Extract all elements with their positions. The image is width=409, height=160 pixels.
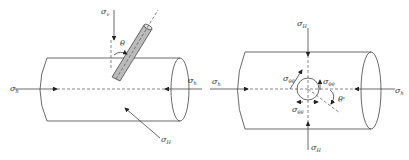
left-cylinder <box>40 58 189 121</box>
right-panel: σH σH σh σh σθθ σθθ σθθ θ' <box>210 19 404 153</box>
right-sigma-h-label-left: σh <box>212 77 221 87</box>
right-sigma-h-label-right: σh <box>395 86 404 96</box>
theta-prime-arc <box>330 90 334 104</box>
theta-label: θ <box>120 39 125 48</box>
inclined-borehole <box>112 10 158 81</box>
sigma-theta-label-3: σθθ <box>292 105 304 115</box>
sigma-theta-label-1: σθθ <box>283 74 295 84</box>
theta-arc <box>114 52 127 55</box>
left-sigma-h-label-left: σh <box>10 84 19 94</box>
left-panel: σv σh σh σH θ <box>10 7 202 145</box>
right-cylinder <box>238 52 382 129</box>
left-sigma-H-label: σH <box>161 135 171 145</box>
left-sigma-v-label: σv <box>101 7 109 17</box>
left-sigma-h-label-right: σh <box>188 76 197 86</box>
right-sigma-H-label-top: σH <box>297 19 307 29</box>
left-sigma-H-arrow <box>125 108 160 138</box>
right-inclined-dash <box>308 89 340 113</box>
theta-prime-label: θ' <box>338 95 345 104</box>
sigma-theta-label-2: σθθ <box>323 77 335 87</box>
borehole-stress-diagram: σv σh σh σH θ σH σH σh σh σθθ σθθ σθθ θ <box>0 0 409 160</box>
right-sigma-H-label-bottom: σH <box>311 143 321 153</box>
